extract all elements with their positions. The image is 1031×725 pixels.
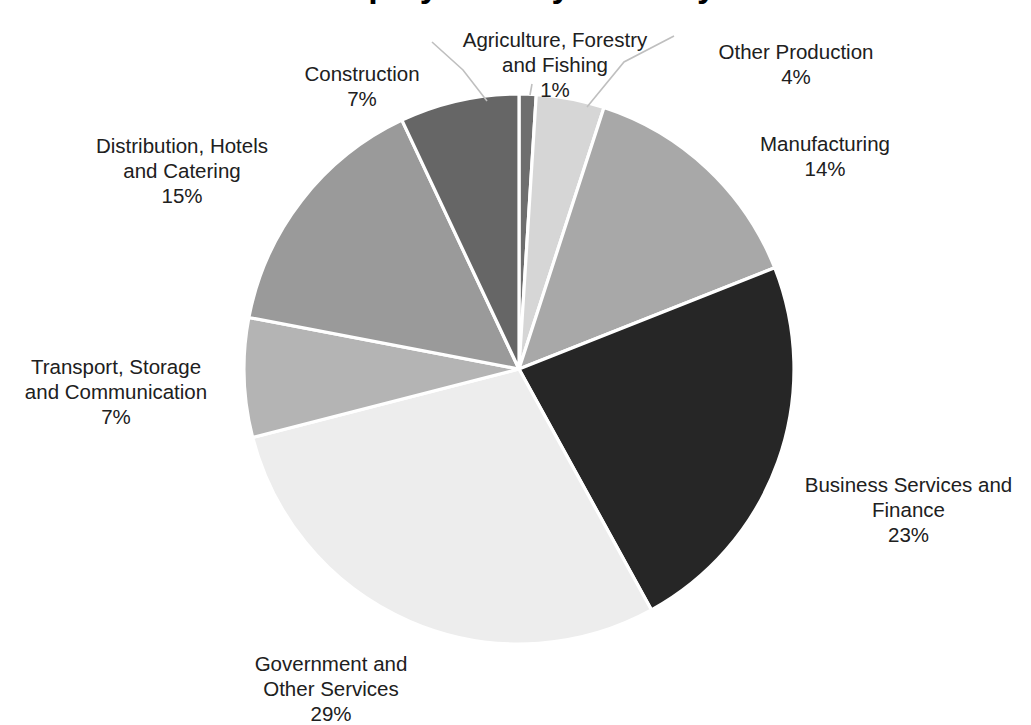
slice-label-agriculture: Agriculture, Forestry and Fishing 1% [424,2,686,127]
slice-label-construction: Construction 7% [264,36,460,136]
slice-label-distribution-hotels-and-catering-text: Distribution, Hotels and Catering [96,134,268,182]
slice-label-business-services-and-finance: Business Services and Finance 23% [786,447,1031,572]
slice-label-agriculture-percent: 1% [424,77,686,102]
slice-label-other-production-percent: 4% [672,64,920,89]
slice-label-business-services-and-finance-text: Business Services and Finance [805,473,1012,521]
slice-label-manufacturing-text: Manufacturing [760,132,890,155]
slice-label-construction-percent: 7% [264,86,460,111]
slice-label-government-and-other-services-percent: 29% [186,701,476,725]
slice-label-business-services-and-finance-percent: 23% [786,522,1031,547]
slice-label-construction-text: Construction [304,62,419,85]
slice-label-agriculture-text: Agriculture, Forestry and Fishing [463,28,648,76]
slice-label-transport-storage-and-communication-text: Transport, Storage and Communication [25,355,207,403]
slice-label-government-and-other-services-text: Government and Other Services [255,652,408,700]
slice-label-other-production-text: Other Production [719,40,874,63]
slice-label-other-production: Other Production 4% [672,14,920,114]
slice-label-transport-storage-and-communication: Transport, Storage and Communication 7% [0,329,232,454]
slice-label-transport-storage-and-communication-percent: 7% [0,404,232,429]
slice-label-government-and-other-services: Government and Other Services 29% [186,626,476,725]
slice-label-distribution-hotels-and-catering-percent: 15% [48,183,316,208]
slice-label-manufacturing: Manufacturing 14% [706,106,944,206]
slice-label-manufacturing-percent: 14% [706,156,944,181]
